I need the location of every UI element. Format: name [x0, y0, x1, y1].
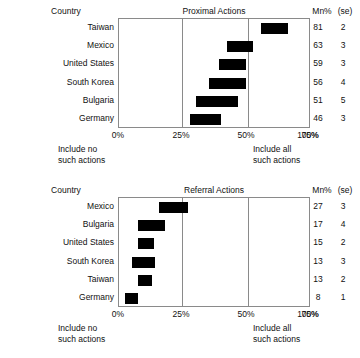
column-header-country: Country	[18, 185, 114, 197]
value-standard-error: 2	[333, 22, 353, 33]
bar	[125, 293, 138, 304]
column-header-standard-error: (se)	[332, 6, 358, 18]
gridline-0	[182, 19, 183, 127]
x-tick-0: 0%	[101, 130, 135, 141]
bar	[261, 23, 288, 34]
category-label: Bulgaria	[4, 219, 114, 230]
bar	[138, 238, 153, 249]
value-mean-percent: 63	[305, 40, 331, 51]
chart-title: Proximal Actions	[118, 6, 310, 18]
category-label: South Korea	[4, 77, 114, 88]
value-standard-error: 3	[333, 201, 353, 212]
gridline-1	[248, 19, 249, 127]
bar	[196, 96, 238, 107]
x-tick-1: 25%	[164, 130, 198, 141]
value-standard-error: 3	[333, 113, 353, 124]
value-standard-error: 4	[333, 77, 353, 88]
bar	[209, 78, 245, 89]
x-tick-1: 25%	[164, 309, 198, 320]
category-label: South Korea	[4, 256, 114, 267]
value-mean-percent: 56	[305, 77, 331, 88]
gridline-0	[182, 198, 183, 306]
chart-title: Referral Actions	[118, 185, 310, 197]
value-standard-error: 1	[333, 292, 353, 303]
category-label: Taiwan	[4, 22, 114, 33]
category-label: Germany	[4, 292, 114, 303]
value-mean-percent: 13	[305, 256, 331, 267]
x-tick-0: 0%	[101, 309, 135, 320]
figure-two-panel-bar-charts: Country Proximal Actions Mn% (se) 0% 25%…	[0, 0, 360, 358]
bar	[132, 257, 155, 268]
x-tick-4: 100%	[291, 309, 325, 320]
axis-note-right-line1: Include all	[253, 144, 291, 154]
axis-note-right-line2: such actions	[253, 155, 300, 165]
value-mean-percent: 15	[305, 237, 331, 248]
bar	[219, 59, 246, 70]
axis-note-left-line1: Include no	[58, 323, 97, 333]
value-standard-error: 3	[333, 58, 353, 69]
value-standard-error: 4	[333, 219, 353, 230]
value-mean-percent: 51	[305, 95, 331, 106]
plot-area	[118, 197, 310, 307]
value-mean-percent: 59	[305, 58, 331, 69]
axis-note-right: Include allsuch actions	[253, 323, 348, 345]
x-tick-4: 100%	[291, 130, 325, 141]
category-label: United States	[4, 237, 114, 248]
axis-note-right-line2: such actions	[253, 334, 300, 344]
value-mean-percent: 81	[305, 22, 331, 33]
value-mean-percent: 27	[305, 201, 331, 212]
axis-note-left: Include nosuch actions	[58, 323, 148, 345]
bar	[159, 202, 188, 213]
axis-note-right-line1: Include all	[253, 323, 291, 333]
axis-note-left: Include nosuch actions	[58, 144, 148, 166]
category-label: Germany	[4, 113, 114, 124]
value-mean-percent: 17	[305, 219, 331, 230]
value-mean-percent: 8	[305, 292, 331, 303]
value-standard-error: 5	[333, 95, 353, 106]
category-label: Taiwan	[4, 274, 114, 285]
x-tick-2: 50%	[229, 309, 263, 320]
axis-note-left-line2: such actions	[58, 334, 105, 344]
value-standard-error: 2	[333, 237, 353, 248]
category-label: United States	[4, 58, 114, 69]
x-tick-2: 50%	[229, 130, 263, 141]
chart-panel-proximal-actions: Country Proximal Actions Mn% (se) 0% 25%…	[0, 0, 360, 179]
category-label: Mexico	[4, 40, 114, 51]
bar	[138, 220, 165, 231]
bar	[227, 41, 254, 52]
value-mean-percent: 13	[305, 274, 331, 285]
value-standard-error: 3	[333, 256, 353, 267]
axis-note-left-line1: Include no	[58, 144, 97, 154]
gridline-1	[248, 198, 249, 306]
bar	[190, 114, 221, 125]
value-mean-percent: 46	[305, 113, 331, 124]
chart-panel-referral-actions: Country Referral Actions Mn% (se) 0% 25%…	[0, 179, 360, 358]
value-standard-error: 3	[333, 40, 353, 51]
axis-note-left-line2: such actions	[58, 155, 105, 165]
category-label: Bulgaria	[4, 95, 114, 106]
plot-area	[118, 18, 310, 128]
axis-note-right: Include allsuch actions	[253, 144, 348, 166]
bar	[138, 275, 151, 286]
value-standard-error: 2	[333, 274, 353, 285]
column-header-standard-error: (se)	[332, 185, 358, 197]
column-header-country: Country	[18, 6, 114, 18]
category-label: Mexico	[4, 201, 114, 212]
